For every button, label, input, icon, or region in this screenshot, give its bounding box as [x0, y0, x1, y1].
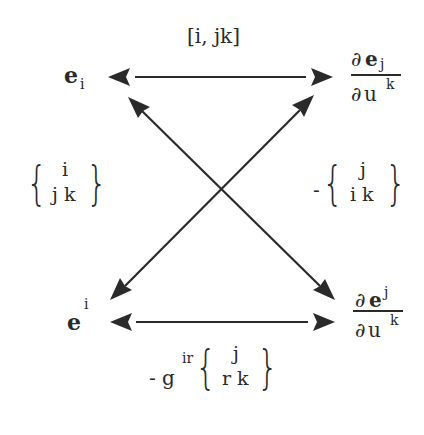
node-top-right-den-superscript: k	[386, 76, 394, 92]
node-bottom-right-num-partial: ∂	[355, 290, 365, 310]
edge-label-bottom-top: j	[233, 344, 239, 363]
node-top-right-den-partial: ∂	[351, 84, 361, 104]
edge-label-right-top: j	[360, 160, 366, 179]
arrowhead-top-left	[108, 68, 130, 86]
bottom-brace-open: {	[195, 344, 215, 390]
node-bottom-right-den-superscript: k	[390, 312, 398, 328]
node-top-right-num-partial: ∂	[351, 49, 361, 69]
left-brace-open: {	[26, 160, 46, 206]
edge-label-left-top: i	[62, 160, 68, 179]
node-top-right-num-base: e	[365, 49, 378, 69]
edge-label-bottom-superscript: ir	[182, 350, 193, 366]
node-top-right-den-base: u	[364, 84, 377, 104]
bottom-brace-close: }	[257, 344, 277, 390]
node-top-left-subscript: i	[80, 76, 84, 92]
edge-label-bottom-prefix: - g	[149, 368, 175, 388]
edge-label-right-bottom: i k	[350, 185, 374, 204]
right-brace-close: }	[385, 160, 405, 206]
node-top-left-base: e	[64, 64, 78, 86]
edge-label-top: [i, jk]	[187, 26, 240, 46]
edge-label-bottom-bottom: r k	[222, 369, 249, 388]
node-bottom-right-den-base: u	[368, 320, 381, 340]
arrowhead-top-right	[311, 68, 333, 86]
node-bottom-right-num-superscript: j	[384, 284, 388, 300]
edge-label-left-bottom: j k	[52, 185, 75, 204]
edge-label-right-sign: -	[313, 180, 320, 200]
node-bottom-right-den-partial: ∂	[355, 320, 365, 340]
node-bottom-left-base: e	[67, 311, 81, 333]
node-top-right-num-subscript: j	[380, 56, 384, 72]
node-bottom-right-num-base: e	[369, 290, 382, 310]
left-brace-close: }	[86, 160, 106, 206]
arrowhead-bottom-right	[313, 313, 335, 331]
right-brace-open: {	[322, 160, 342, 206]
arrowhead-bottom-left	[110, 313, 132, 331]
node-bottom-left-superscript: i	[84, 296, 88, 312]
arrow-diagonal-bl-tr	[125, 110, 300, 286]
arrow-diagonal-tl-br	[142, 111, 320, 286]
